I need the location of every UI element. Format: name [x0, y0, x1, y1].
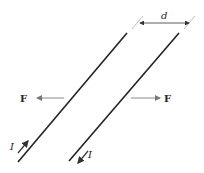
- separation-tick-right: [184, 16, 195, 29]
- left-force-label: F: [20, 93, 27, 104]
- separation-label: d: [161, 10, 167, 21]
- right-current-arrow: [78, 151, 88, 163]
- right-force-label: F: [164, 93, 171, 104]
- right-wire: [69, 33, 179, 161]
- diagram-canvas: d F F I I: [0, 0, 204, 173]
- left-current-label: I: [9, 141, 15, 152]
- separation-tick-left: [132, 16, 143, 29]
- left-wire: [18, 33, 127, 162]
- right-current-label: I: [87, 149, 93, 160]
